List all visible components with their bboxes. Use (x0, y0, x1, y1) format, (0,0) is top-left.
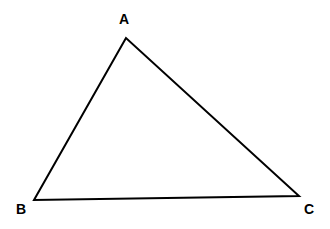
vertex-label-b: B (16, 202, 26, 216)
vertex-label-c: C (304, 202, 314, 216)
figure-canvas: A B C (0, 0, 330, 229)
triangle-outline (34, 38, 299, 200)
triangle-diagram (0, 0, 330, 229)
vertex-label-a: A (119, 12, 129, 26)
